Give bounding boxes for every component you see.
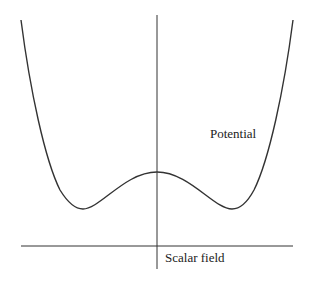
diagram-canvas: Potential Scalar field <box>0 0 310 282</box>
potential-label: Potential <box>210 127 256 140</box>
scalar-field-label: Scalar field <box>165 251 225 264</box>
double-well-plot <box>0 0 310 282</box>
